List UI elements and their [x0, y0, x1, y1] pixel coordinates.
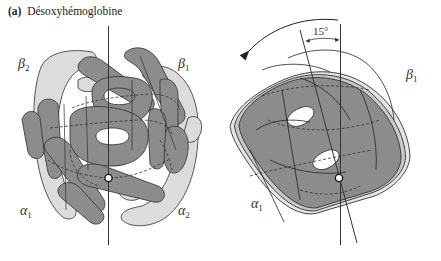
label-alpha1-right: α1	[251, 196, 263, 213]
label-alpha1-left: α1	[20, 203, 32, 220]
right-pivot-point	[335, 174, 342, 181]
label-alpha2-left: α2	[178, 203, 190, 220]
label-beta1-right: β1	[406, 67, 417, 84]
left-pivot-point	[105, 174, 112, 181]
right-structure	[219, 35, 429, 246]
left-structure	[22, 48, 202, 226]
angle-arc	[306, 38, 339, 41]
label-beta1-left: β1	[178, 56, 189, 73]
label-beta2-left: β2	[18, 56, 29, 73]
hemoglobin-diagram	[0, 0, 441, 261]
rotation-angle-label: 15°	[313, 25, 328, 37]
